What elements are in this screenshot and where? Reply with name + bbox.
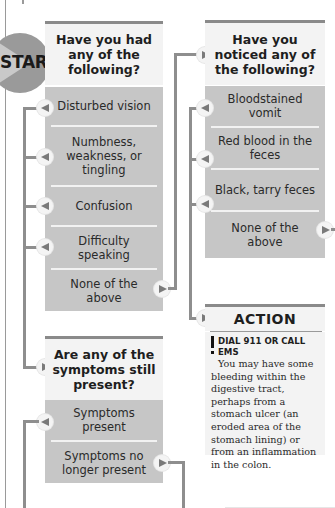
option-none-of-the-above-1[interactable]: None of the above: [45, 270, 163, 311]
arrow-left-icon: [37, 239, 53, 255]
question3-title: Are any of the symptoms still present?: [51, 347, 157, 392]
arrow-left-icon: [197, 196, 213, 212]
arrow-left-icon: [37, 149, 53, 165]
option-label: None of the above: [213, 221, 317, 249]
option-numbness[interactable]: Numbness, weakness, or tingling: [45, 127, 163, 185]
arrow-left-icon: [37, 198, 53, 214]
option-label: Bloodstained vomit: [213, 92, 317, 120]
option-label: Disturbed vision: [57, 99, 150, 113]
option-confusion[interactable]: Confusion: [45, 187, 163, 225]
question2-header: Have you noticed any of the following?: [205, 20, 325, 85]
action-alert: DIAL 911 OR CALL EMS: [211, 336, 321, 358]
option-label: Symptoms present: [53, 406, 155, 434]
option-difficulty-speaking[interactable]: Difficulty speaking: [45, 227, 163, 268]
action-title: ACTION: [234, 311, 297, 327]
option-label: Symptoms no longer present: [53, 449, 155, 477]
question2-options: Bloodstained vomit Red blood in the fece…: [205, 86, 325, 258]
option-label: Difficulty speaking: [53, 234, 155, 262]
option-label: None of the above: [53, 277, 155, 305]
question1-title: Have you had any of the following?: [51, 32, 157, 77]
option-bloodstained-vomit[interactable]: Bloodstained vomit: [205, 86, 325, 126]
question2-title: Have you noticed any of the following?: [211, 32, 319, 77]
option-label: Black, tarry feces: [215, 183, 315, 197]
action-alert-text: DIAL 911 OR CALL EMS: [218, 336, 305, 357]
option-symptoms-present[interactable]: Symptoms present: [45, 400, 163, 440]
exclamation-icon: [211, 336, 214, 348]
action-description: You may have some bleeding within the di…: [211, 358, 321, 471]
arrow-left-icon: [37, 414, 53, 430]
option-symptoms-no-longer-present[interactable]: Symptoms no longer present: [45, 442, 163, 483]
option-label: Numbness, weakness, or tingling: [53, 135, 155, 177]
connector-symptoms-no-longer: [182, 461, 185, 508]
exclamation-dot: [211, 351, 214, 354]
top-tick: [22, 0, 24, 4]
connector-q2-none-offpage: [331, 228, 335, 231]
action-header: ACTION: [205, 304, 325, 331]
arrow-left-icon: [197, 100, 213, 116]
option-disturbed-vision[interactable]: Disturbed vision: [45, 87, 163, 125]
connector-symptoms-present: [23, 420, 26, 508]
question3-options: Symptoms present Symptoms no longer pres…: [45, 400, 163, 483]
connector-q1-to-q3: [23, 107, 26, 368]
option-black-tarry-feces[interactable]: Black, tarry feces: [205, 170, 325, 210]
question3-header: Are any of the symptoms still present?: [45, 336, 163, 400]
option-none-of-the-above-2[interactable]: None of the above: [205, 212, 325, 258]
option-red-blood-feces[interactable]: Red blood in the feces: [205, 128, 325, 168]
action-body: DIAL 911 OR CALL EMS You may have some b…: [205, 332, 325, 455]
connector-q2-to-action: [189, 107, 192, 320]
option-label: Red blood in the feces: [213, 134, 317, 162]
connector-q1-none-to-q2: [174, 53, 177, 290]
option-label: Confusion: [75, 199, 132, 213]
arrow-left-icon: [197, 151, 213, 167]
question1-header: Have you had any of the following?: [45, 21, 163, 85]
arrow-left-icon: [37, 100, 53, 116]
question1-options: Disturbed vision Numbness, weakness, or …: [45, 87, 163, 311]
